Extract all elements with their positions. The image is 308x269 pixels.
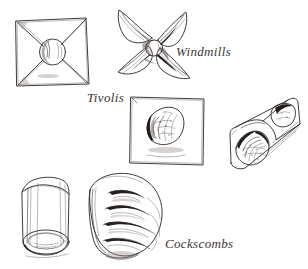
- label-cockscombs: Cockscombs: [165, 237, 234, 250]
- figure-rolled-log-diagonal: [230, 98, 300, 169]
- figure-tivoli-square: [130, 97, 204, 165]
- label-windmills: Windmills: [176, 45, 231, 58]
- figure-cockscomb-fan: [89, 173, 162, 259]
- figure-rolled-log-upright: [22, 177, 69, 257]
- label-tivolis: Tivolis: [87, 91, 124, 104]
- figure-windmill-flat: [16, 18, 89, 86]
- illustration-page: Windmills Tivolis Cockscombs: [0, 0, 308, 269]
- pastry-illustration-artwork: [0, 0, 308, 269]
